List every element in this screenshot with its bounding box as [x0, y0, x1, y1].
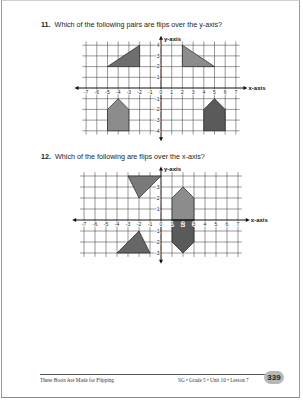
coordinate-grid-2: y-axisx-axis-7-6-5-4-3-2-101234567-3-2-1…: [0, 0, 303, 409]
svg-text:-1: -1: [148, 221, 153, 227]
svg-text:6: 6: [226, 221, 229, 227]
svg-text:2: 2: [182, 221, 185, 227]
footer-divider: [40, 374, 268, 375]
svg-text:4: 4: [204, 221, 207, 227]
x-axis-label: x-axis: [251, 217, 269, 223]
svg-text:7: 7: [237, 221, 240, 227]
svg-text:3: 3: [193, 221, 196, 227]
svg-text:-5: -5: [104, 221, 109, 227]
svg-text:-3: -3: [155, 250, 160, 256]
svg-text:2: 2: [157, 195, 160, 201]
footer-course-info: SG • Grade 5 • Unit 10 • Lesson 7: [178, 377, 249, 383]
svg-text:-2: -2: [155, 239, 160, 245]
svg-text:0: 0: [160, 221, 163, 227]
svg-text:-1: -1: [155, 228, 160, 234]
svg-text:1: 1: [157, 206, 160, 212]
hexagon-upper: [172, 187, 194, 220]
page-number-badge: 339: [264, 371, 284, 384]
svg-text:-7: -7: [82, 221, 87, 227]
svg-text:3: 3: [157, 184, 160, 190]
footer-title: These Boots Are Made for Flipping: [40, 377, 114, 383]
svg-text:-6: -6: [93, 221, 98, 227]
y-axis-label: y-axis: [164, 166, 182, 172]
svg-text:-3: -3: [126, 221, 131, 227]
svg-text:-4: -4: [115, 221, 120, 227]
svg-text:-2: -2: [137, 221, 142, 227]
svg-text:5: 5: [215, 221, 218, 227]
svg-text:1: 1: [171, 221, 174, 227]
